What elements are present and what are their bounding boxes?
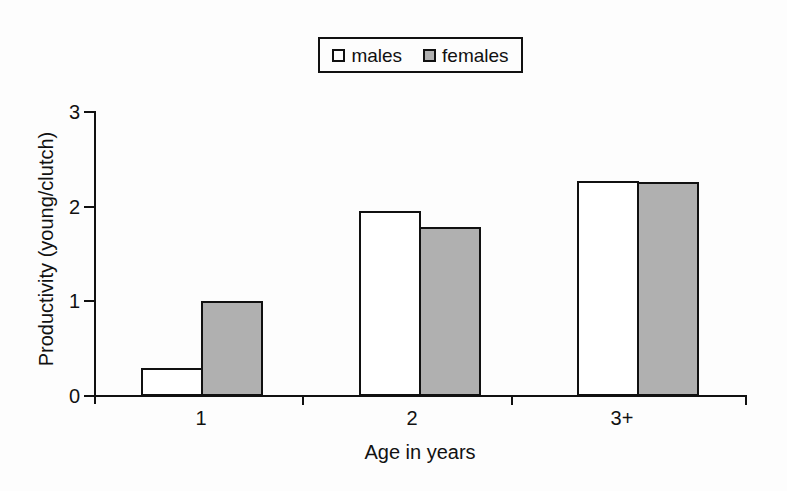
- x-category-label-3+: 3+: [582, 406, 662, 430]
- y-tick-3: [84, 111, 94, 113]
- bar-females-age-2: [419, 227, 481, 396]
- x-category-label-2: 2: [372, 406, 452, 430]
- bar-males-age-1: [141, 368, 203, 396]
- x-tick-1: [511, 397, 513, 405]
- y-axis-title: Productivity (young/clutch): [35, 132, 58, 367]
- bar-chart-figure: males females Productivity (young/clutch…: [0, 0, 787, 491]
- y-tick-label-2: 2: [36, 194, 80, 220]
- y-tick-label-3: 3: [36, 99, 80, 125]
- y-axis-line: [94, 111, 96, 404]
- y-tick-label-0: 0: [36, 383, 80, 409]
- y-tick-2: [84, 206, 94, 208]
- plot-area: Productivity (young/clutch) Age in years…: [0, 0, 787, 491]
- x-tick-0: [302, 397, 304, 405]
- y-tick-label-1: 1: [36, 288, 80, 314]
- bar-females-age-1: [201, 301, 263, 396]
- y-tick-1: [84, 300, 94, 302]
- y-tick-0: [84, 395, 94, 397]
- bar-females-age-3+: [637, 182, 699, 396]
- x-tick-2: [745, 397, 747, 405]
- bar-males-age-3+: [577, 181, 639, 396]
- x-category-label-1: 1: [161, 406, 241, 430]
- x-axis-title: Age in years: [364, 441, 475, 464]
- bar-males-age-2: [359, 211, 421, 396]
